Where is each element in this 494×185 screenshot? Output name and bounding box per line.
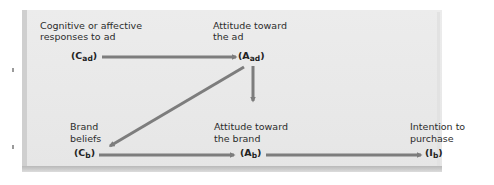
node-ib-label-line2: purchase (410, 133, 454, 144)
node-ab-label-line1: Attitude toward (214, 121, 288, 132)
node-ab-symbol: (Ab) (240, 147, 261, 160)
node-ib-label-line1: Intention to (410, 121, 465, 132)
node-cad-label-line2: responses to ad (40, 31, 116, 42)
node-cad-symbol: (Cad) (71, 50, 97, 63)
node-ab-label-line2: the brand (214, 133, 260, 144)
node-cb-label-line1: Brand (70, 121, 98, 132)
node-aad-label-line2: the ad (213, 31, 243, 42)
node-cad-label-line1: Cognitive or affective (40, 20, 142, 31)
node-cb-symbol: (Cb) (74, 147, 95, 160)
node-aad-symbol: (Aad) (238, 50, 264, 63)
node-aad-label-line1: Attitude toward (213, 20, 287, 31)
node-ib-symbol: (Ib) (425, 147, 443, 160)
node-cb-label-line2: beliefs (70, 133, 101, 144)
